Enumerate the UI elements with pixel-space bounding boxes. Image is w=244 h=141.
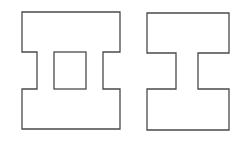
diagram-svg [0,0,244,141]
square-hole [54,52,86,89]
diagram-canvas [0,0,244,141]
i-beam-solid-outline [147,13,229,130]
i-beam-with-hole-outline [22,12,120,129]
